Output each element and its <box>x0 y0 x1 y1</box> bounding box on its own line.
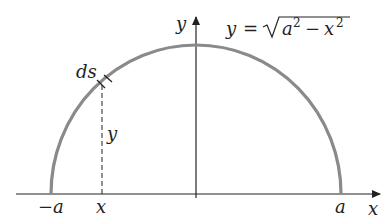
x-point-label: x <box>96 196 106 217</box>
x-axis-label: x <box>368 198 378 219</box>
y-height-label: y <box>106 123 118 144</box>
semicircle-diagram: y x −a a x y ds y = a 2 − x 2 <box>0 0 391 222</box>
equation-minus: − <box>305 18 320 39</box>
equation-a: a <box>282 18 293 39</box>
equation-lhs: y <box>225 18 237 39</box>
equation-x-exponent: 2 <box>336 16 344 30</box>
equation-equals: = <box>243 18 258 39</box>
equation-x: x <box>324 18 334 39</box>
pos-a-label: a <box>335 196 346 217</box>
ds-label: ds <box>76 61 97 82</box>
y-axis-label: y <box>175 13 187 34</box>
curve-equation: y = a 2 − x 2 <box>225 16 350 39</box>
neg-a-label: −a <box>38 196 64 217</box>
equation-a-exponent: 2 <box>293 16 301 30</box>
